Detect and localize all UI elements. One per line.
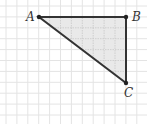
vertex-b-label: B [131,10,141,24]
triangle-diagram: ABC [0,0,147,124]
vertex-a-label: A [25,10,35,24]
vertex-c-point [124,81,128,85]
vertex-b-point [124,15,128,19]
vertex-c-label: C [124,86,133,100]
vertex-a-point [37,15,41,19]
